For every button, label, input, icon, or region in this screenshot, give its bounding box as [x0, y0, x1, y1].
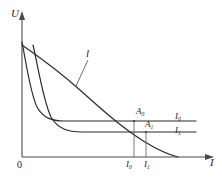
operating-point-A0-subscript: 0	[142, 111, 145, 117]
x-tick-label-I0: I0	[126, 160, 132, 169]
x-tick-I0-subscript: 0	[129, 164, 132, 170]
uv-characteristic-figure: U I 0 l A0 A1 I0 I1 I0 I1	[0, 0, 222, 183]
operating-point-A0-label: A0	[136, 107, 144, 116]
curve-characteristic-I1	[33, 45, 196, 132]
operating-point-A0-marker	[133, 120, 135, 122]
leader-line-l	[76, 60, 88, 86]
operating-point-A1-marker	[145, 131, 147, 133]
operating-point-A1-label: A1	[145, 120, 153, 129]
origin-label: 0	[17, 160, 22, 170]
y-axis-label: U	[11, 8, 19, 19]
load-line-label: l	[86, 48, 89, 59]
x-tick-I1-subscript: 1	[147, 164, 150, 170]
x-axis-label: I	[210, 157, 214, 168]
operating-point-A0-letter: A	[136, 106, 142, 116]
y-axis	[19, 11, 25, 157]
curve-I0-right-label: I0	[175, 112, 181, 121]
curve-I1-right-label: I1	[175, 126, 181, 135]
operating-point-A1-subscript: 1	[151, 124, 154, 130]
operating-point-A1-letter: A	[145, 119, 151, 129]
plot-canvas	[0, 0, 222, 183]
x-tick-label-I1: I1	[144, 160, 150, 169]
x-axis	[22, 154, 214, 160]
curve-I1-right-subscript: 1	[178, 130, 181, 136]
curve-I0-right-subscript: 0	[178, 116, 181, 122]
